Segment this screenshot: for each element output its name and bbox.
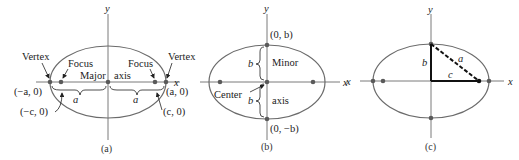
- center-dot: [265, 80, 270, 85]
- caption-c: (c): [425, 141, 436, 153]
- caption-a: (a): [101, 143, 112, 155]
- bottom-vertex-dot: [265, 117, 270, 122]
- focus-right-dot: [153, 80, 158, 85]
- brace-b-bottom: [256, 84, 264, 117]
- panel-a: y x Vertex Focus Major axis Focus Vertex…: [14, 3, 196, 155]
- panel-c: y x x b a c (c): [345, 4, 513, 153]
- focus-right-dot: [311, 80, 316, 85]
- focus-left-dot: [218, 80, 223, 85]
- axis-label: axis: [272, 95, 289, 106]
- vertex-left-dot: [48, 80, 53, 85]
- panel-b: y x (0, b) (0, −b) Minor axis Center b b…: [200, 3, 348, 153]
- focus-right-dot: [477, 79, 482, 84]
- focus-left-label: Focus: [68, 58, 93, 69]
- a-left-label: a: [73, 94, 78, 105]
- center-dot: [106, 80, 111, 85]
- top-vertex-dot: [265, 43, 270, 48]
- triangle-side-a: [431, 44, 479, 81]
- c-label: c: [448, 69, 453, 80]
- y-axis-label: y: [427, 4, 433, 15]
- vertex-right-label: Vertex: [168, 51, 196, 62]
- focus-right-label: Focus: [128, 58, 153, 69]
- vertex-right-arrow: [167, 63, 172, 78]
- x-axis-left-label: x: [345, 76, 351, 87]
- b-top-label: b: [248, 58, 253, 69]
- focus-left-arrow: [63, 69, 68, 78]
- x-axis-label: x: [507, 76, 513, 87]
- y-axis-label: y: [104, 3, 110, 14]
- pos-a-label: (a, 0): [166, 86, 189, 98]
- major-label: Major: [80, 70, 106, 81]
- vertex-left-label: Vertex: [22, 51, 50, 62]
- focus-left-dot: [381, 79, 386, 84]
- vertex-left-arrow: [42, 63, 49, 78]
- a-right-label: a: [133, 94, 138, 105]
- minor-label: Minor: [272, 57, 299, 68]
- brace-b-top: [256, 47, 264, 80]
- neg-c-label: (−c, 0): [20, 106, 49, 118]
- ellipse-diagram: y x Vertex Focus Major axis Focus Vertex…: [0, 0, 519, 160]
- vertex-right-dot: [487, 79, 492, 84]
- caption-b: (b): [261, 141, 273, 153]
- center-label: Center: [214, 89, 242, 100]
- vertex-left-dot: [371, 79, 376, 84]
- bottom-vertex-dot: [429, 116, 434, 121]
- y-axis-label: y: [263, 3, 269, 14]
- a-label: a: [458, 53, 463, 64]
- neg-c-arrow: [55, 93, 62, 112]
- center-arrow: [250, 85, 264, 92]
- axis-label: axis: [114, 70, 131, 81]
- top-point-label: (0, b): [270, 29, 293, 41]
- pos-c-label: (c, 0): [163, 106, 186, 118]
- bottom-point-label: (0, −b): [270, 123, 299, 135]
- b-label: b: [422, 57, 427, 68]
- neg-a-label: (−a, 0): [14, 86, 43, 98]
- focus-left-dot: [59, 80, 64, 85]
- brace-a-left: [52, 86, 106, 95]
- b-bottom-label: b: [248, 95, 253, 106]
- focus-right-arrow: [150, 69, 154, 78]
- vertex-right-dot: [164, 80, 169, 85]
